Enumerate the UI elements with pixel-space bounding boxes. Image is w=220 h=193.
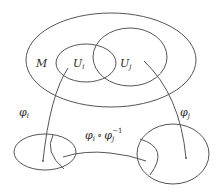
transition-map-label: φi∘φj−1 <box>85 127 123 143</box>
manifold-label: M <box>35 57 48 70</box>
image-region-phi-i <box>14 134 76 170</box>
image-overlap-arc-left <box>50 135 64 169</box>
chart-domain-Uj <box>93 28 167 86</box>
manifold-M-region <box>26 13 196 107</box>
map-label-phi-j: φj <box>180 106 191 120</box>
manifold-chart-diagram: M Ui Uj φi φj φi∘φj−1 <box>0 0 220 193</box>
image-region-phi-j <box>137 124 209 184</box>
map-phi-i-arrow <box>43 68 68 161</box>
chart-domain-Ui <box>56 44 116 82</box>
map-phi-j-endpoint <box>185 157 187 159</box>
chart-label-Ui: Ui <box>73 57 85 71</box>
map-phi-i-endpoint <box>42 160 44 162</box>
chart-label-Uj: Uj <box>120 57 132 71</box>
map-label-phi-i: φi <box>19 106 29 120</box>
